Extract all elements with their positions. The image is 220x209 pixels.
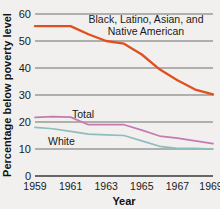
y-tick-30: 30 [19, 89, 31, 101]
y-axis-title: Percentage below poverty level [1, 13, 13, 177]
x-tick-1963: 1963 [95, 180, 119, 192]
y-tick-20: 20 [19, 116, 31, 128]
annotation-minority-line2: Native American [108, 25, 185, 37]
annotation-minority-line1: Black, Latino, Asian, and [89, 13, 204, 25]
chart-canvas: 60 50 40 30 20 10 0 Percentage below pov… [0, 0, 220, 209]
y-tick-60: 60 [19, 8, 31, 20]
x-tick-1959: 1959 [23, 180, 47, 192]
annotation-white: White [48, 135, 75, 147]
x-axis-title: Year [112, 195, 136, 207]
annotation-total: Total [72, 108, 94, 120]
poverty-rate-line-chart: 60 50 40 30 20 10 0 Percentage below pov… [0, 0, 220, 209]
x-tick-1967: 1967 [166, 180, 190, 192]
x-tick-1969: 1969 [199, 180, 220, 192]
y-tick-50: 50 [19, 35, 31, 47]
y-tick-40: 40 [19, 62, 31, 74]
y-tick-10: 10 [19, 143, 31, 155]
x-tick-1961: 1961 [59, 180, 83, 192]
x-tick-1965: 1965 [130, 180, 154, 192]
